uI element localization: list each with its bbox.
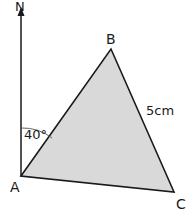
bearing-diagram: N B A C 5cm 40° (0, 0, 192, 218)
side-length-label: 5cm (146, 103, 174, 118)
triangle-abc (21, 49, 174, 192)
north-label: N (15, 0, 25, 14)
angle-label: 40° (24, 127, 47, 142)
vertex-label-a: A (10, 179, 20, 195)
vertex-label-c: C (176, 196, 186, 212)
vertex-label-b: B (106, 31, 116, 47)
